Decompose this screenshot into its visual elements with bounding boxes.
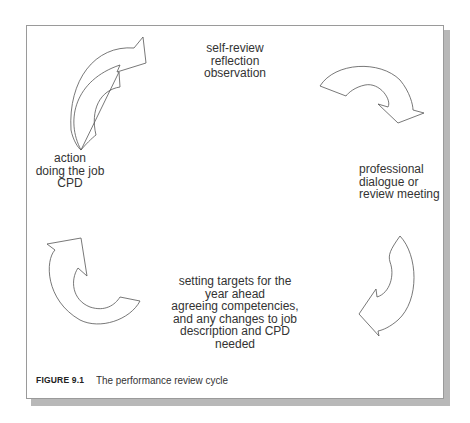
stage-bottom-label: setting targets for the year ahead agree…: [160, 275, 310, 351]
figure-caption: FIGURE 9.1 The performance review cycle: [36, 374, 243, 386]
stage-top-label: self-review reflection observation: [190, 42, 280, 80]
stage-left-line: action: [30, 152, 110, 165]
arrow-top-left-icon: [71, 37, 146, 150]
figure-number: FIGURE 9.1: [36, 375, 84, 385]
arrow-bottom-left-icon: [47, 238, 140, 324]
stage-right-line: review meeting: [359, 188, 449, 201]
stage-left-label: action doing the job CPD: [30, 152, 110, 190]
stage-bottom-line: needed: [160, 338, 310, 351]
stage-top-line: observation: [190, 67, 280, 80]
stage-right-line: professional: [359, 163, 449, 176]
stage-left-line: CPD: [30, 177, 110, 190]
arrow-bottom-right-icon: [359, 236, 414, 336]
stage-bottom-line: agreeing competencies,: [160, 300, 310, 313]
arrow-top-right-icon: [320, 66, 424, 123]
figure-title: The performance review cycle: [96, 374, 228, 386]
stage-right-label: professional dialogue or review meeting: [359, 163, 449, 201]
stage-top-line: self-review: [190, 42, 280, 55]
stage-bottom-line: setting targets for the: [160, 275, 310, 288]
